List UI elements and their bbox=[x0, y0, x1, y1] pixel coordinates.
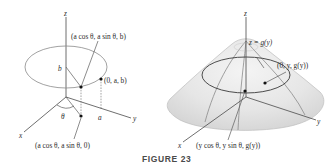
angle-label: θ bbox=[61, 112, 65, 121]
figure-canvas: z x y b a θ (a cos θ, a sin θ, b) (0, a,… bbox=[0, 0, 335, 168]
y-axis-label: y bbox=[132, 114, 137, 123]
point-top-label: (a cos θ, a sin θ, b) bbox=[71, 32, 126, 41]
surface-of-revolution bbox=[167, 39, 324, 131]
x-axis-label: x bbox=[177, 141, 182, 150]
y-axis-label: y bbox=[316, 117, 321, 126]
left-panel: z x y b a θ (a cos θ, a sin θ, b) (0, a,… bbox=[18, 9, 137, 150]
right-panel: z x y z = g(y) (0, y, g(y)) (y cos θ, y … bbox=[167, 9, 324, 150]
x-axis bbox=[24, 97, 66, 132]
radius-label: a bbox=[98, 113, 102, 122]
surface-equation-label: z = g(y) bbox=[248, 38, 273, 47]
radius-segment bbox=[66, 67, 81, 87]
leader-bottom-point bbox=[74, 118, 81, 139]
x-axis-label: x bbox=[18, 131, 23, 140]
point-right-label: (0, a, b) bbox=[104, 76, 127, 85]
point-bottom bbox=[243, 89, 246, 92]
point-right-label: (0, y, g(y)) bbox=[277, 61, 309, 70]
figure-caption: FIGURE 23 bbox=[142, 154, 191, 164]
point-bottom-label: (y cos θ, y sin θ, g(y)) bbox=[196, 141, 261, 150]
height-label: b bbox=[58, 64, 62, 73]
z-axis-label: z bbox=[63, 9, 67, 18]
point-right bbox=[263, 81, 266, 84]
point-bottom bbox=[79, 114, 82, 117]
z-axis-label: z bbox=[243, 9, 247, 18]
point-top bbox=[79, 85, 82, 88]
angle-arc bbox=[57, 105, 74, 108]
point-right bbox=[99, 77, 102, 80]
point-bottom-label: (a cos θ, a sin θ, 0) bbox=[35, 141, 90, 150]
